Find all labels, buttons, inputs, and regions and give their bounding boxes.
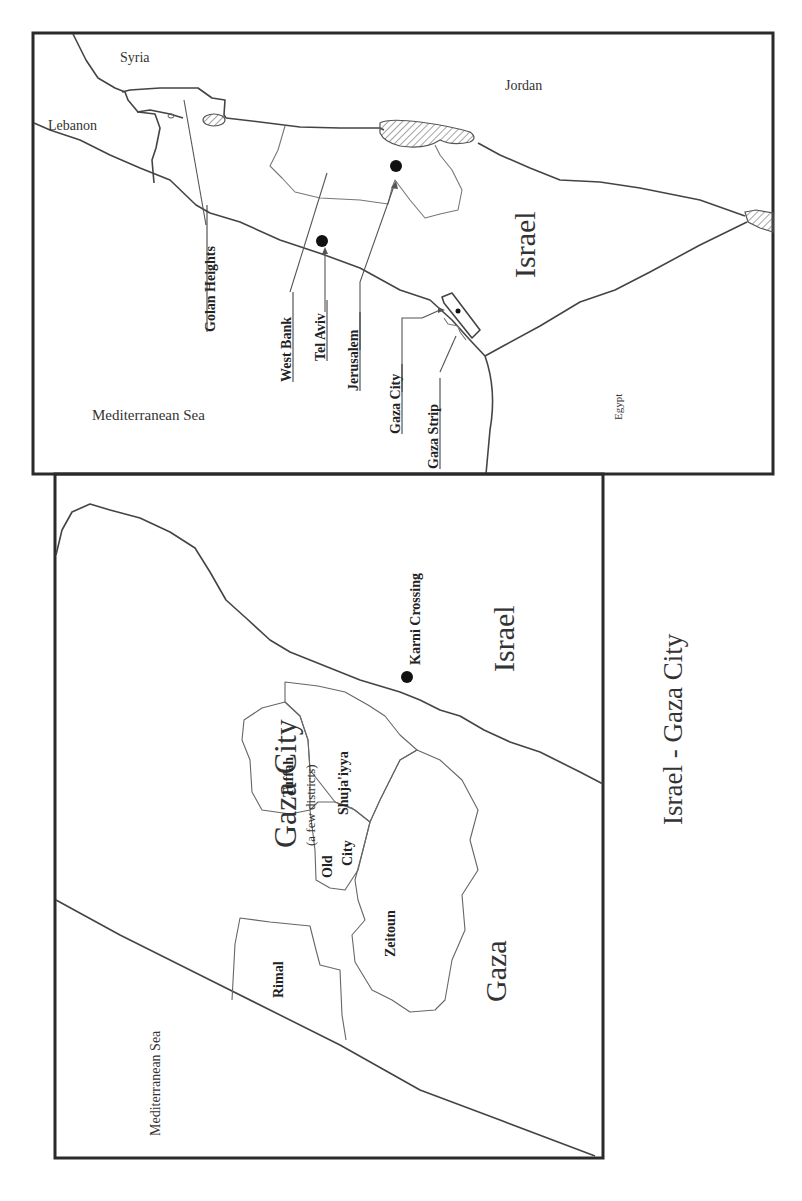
sinai-coast: [485, 356, 493, 474]
gaza-israel-border: [56, 504, 603, 784]
svg-text:Tel Aviv: Tel Aviv: [313, 313, 328, 361]
jordan-border: [226, 118, 384, 130]
svg-text:Gaza City: Gaza City: [388, 374, 403, 434]
svg-text:Gaza Strip: Gaza Strip: [426, 404, 441, 469]
golan-outline: [122, 88, 226, 118]
israel-overview-map: Syria Lebanon Jordan Israel Egypt Medite…: [33, 33, 773, 474]
label-egypt: Egypt: [612, 394, 624, 420]
coastline: [34, 123, 485, 356]
gulf-of-aqaba: [745, 210, 773, 232]
map-figure: Syria Lebanon Jordan Israel Egypt Medite…: [0, 0, 802, 1201]
jerusalem-dot: [390, 160, 402, 172]
label-israel-bottom: Israel: [487, 605, 520, 672]
tel-aviv-dot: [316, 235, 328, 247]
jerusalem-leader: [360, 186, 394, 350]
label-golan-heights: Golan Heights: [203, 205, 218, 332]
label-gaza: Gaza: [479, 940, 512, 1002]
gaza-city-dot: [456, 309, 461, 314]
label-israel: Israel: [508, 211, 541, 278]
label-syria: Syria: [120, 50, 150, 65]
label-tel-aviv: Tel Aviv: [313, 300, 328, 361]
label-a-few-districts: (a few districts): [303, 764, 318, 846]
label-karni-crossing: Karni Crossing: [408, 573, 423, 665]
label-tuffah: Tuffah: [281, 757, 296, 797]
gaza-strip-leader: [440, 336, 456, 372]
label-west-bank: West Bank: [279, 292, 294, 382]
sea-of-galilee: [203, 114, 225, 126]
figure-caption: Israel - Gaza City: [658, 633, 688, 825]
jordan-south-border: [478, 143, 745, 216]
gaza-city-map: Gaza City (a few districts) Israel Gaza …: [55, 474, 603, 1158]
west-bank-leader: [290, 173, 327, 292]
label-city: City: [340, 840, 355, 866]
gaza-city-leader-tip: [422, 310, 440, 318]
gaza-coastline: [56, 900, 595, 1156]
svg-text:Jerusalem: Jerusalem: [346, 329, 361, 391]
gaza-city-leader: [402, 318, 422, 392]
label-mediterranean-sea-bottom: Mediterranean Sea: [148, 1030, 163, 1136]
label-lebanon: Lebanon: [48, 118, 97, 133]
golan-inner-outline: [137, 110, 183, 118]
district-rimal-outline: [232, 918, 346, 1040]
dead-sea: [380, 120, 474, 147]
label-zeitoun: Zeitoun: [383, 910, 398, 957]
label-gaza-strip: Gaza Strip: [426, 378, 441, 469]
karni-crossing-dot: [401, 671, 413, 683]
label-gaza-city-top: Gaza City: [388, 364, 403, 434]
gaza-coast-detail: [444, 318, 466, 340]
label-jordan: Jordan: [505, 78, 542, 93]
svg-text:Golan Heights: Golan Heights: [203, 245, 218, 332]
label-mediterranean-sea-top: Mediterranean Sea: [92, 407, 205, 423]
label-rimal: Rimal: [271, 961, 286, 998]
bottom-map-frame: [55, 474, 603, 1158]
label-jerusalem: Jerusalem: [346, 312, 361, 391]
svg-text:West Bank: West Bank: [279, 317, 294, 382]
label-old: Old: [320, 855, 335, 878]
label-shujaiyya: Shuja'iyya: [336, 751, 351, 815]
district-zeitoun-outline: [352, 750, 478, 1012]
tel-aviv-arrow-icon: [322, 247, 328, 254]
